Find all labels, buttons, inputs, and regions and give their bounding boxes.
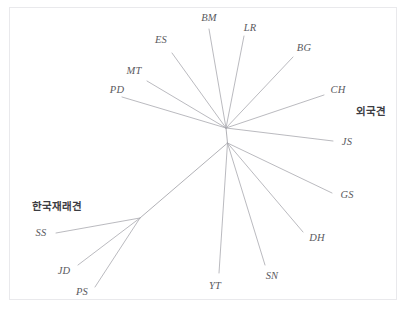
group-label-foreign: 외국견 (356, 103, 386, 118)
taxon-label-dh: DH (309, 232, 325, 243)
taxon-label-bg: BG (297, 42, 311, 53)
taxon-label-bm: BM (201, 12, 217, 23)
taxon-label-jd: JD (58, 265, 71, 276)
taxon-label-sn: SN (266, 270, 279, 281)
group-label-korean-native: 한국재래견 (32, 198, 82, 213)
taxon-label-lr: LR (244, 22, 257, 33)
taxon-label-ch: CH (331, 84, 346, 95)
taxon-label-ss: SS (36, 227, 47, 238)
taxon-label-yt: YT (209, 280, 221, 291)
taxon-label-mt: MT (127, 65, 142, 76)
taxon-label-gs: GS (340, 189, 353, 200)
taxon-label-es: ES (155, 34, 167, 45)
figure-screen: PDMTESBMLRBGCHJSGSDHSNYTSSJDPS한국재래견외국견 (0, 0, 409, 322)
taxon-label-ps: PS (76, 286, 88, 297)
taxon-label-js: JS (342, 136, 352, 147)
figure-frame (9, 7, 397, 300)
taxon-label-pd: PD (110, 84, 124, 95)
caption-strip (0, 306, 409, 322)
